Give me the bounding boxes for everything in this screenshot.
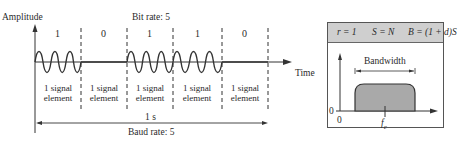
signal-element-label: 1 signal element	[222, 83, 268, 103]
signal-element-label: 1 signal element	[81, 83, 127, 103]
signal-element-label: 1 signal element	[127, 83, 173, 103]
duration-label: 1 s	[145, 112, 156, 122]
amplitude-label: Amplitude	[2, 12, 43, 22]
bit-value: 0	[242, 28, 247, 39]
bandwidth-label: Bandwidth	[364, 56, 406, 66]
amplitude-axis	[33, 24, 38, 133]
bit-value: 0	[101, 28, 106, 39]
time-label: Time	[295, 68, 315, 78]
bandwidth-panel: r = 1 S = N B = (1 + d)S Bandwidth 0 0 f…	[327, 22, 444, 128]
bit-value: 1	[55, 28, 60, 39]
spectrum-graphics	[328, 23, 445, 129]
baud-rate-label: Baud rate: 5	[128, 127, 174, 137]
y-zero-label: 0	[329, 106, 334, 116]
bit-value: 1	[147, 28, 152, 39]
signal-element-label: 1 signal element	[35, 83, 81, 103]
x-zero-label: 0	[337, 115, 342, 125]
bit-value: 1	[195, 28, 200, 39]
signal-element-label: 1 signal element	[174, 83, 220, 103]
carrier-frequency-label: fc	[381, 118, 387, 132]
bit-rate-label: Bit rate: 5	[132, 12, 170, 22]
